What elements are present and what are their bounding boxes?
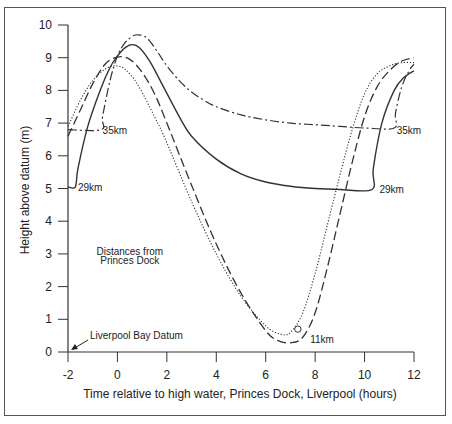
axes: 012345678910-2024681012Time relative to … xyxy=(18,18,421,401)
annotation-label: 29km xyxy=(78,182,102,193)
annotation-label: Princes Dock xyxy=(100,255,160,266)
annotation-label: 35km xyxy=(397,125,421,136)
series-line-35km xyxy=(68,35,414,131)
y-tick-label: 2 xyxy=(45,280,52,294)
annotation-label: 35km xyxy=(103,125,127,136)
tide-height-chart: 012345678910-2024681012Time relative to … xyxy=(0,0,452,424)
x-tick-label: 10 xyxy=(358,368,372,382)
annotation-label: Liverpool Bay Datum xyxy=(90,330,183,341)
x-tick-label: 12 xyxy=(407,368,421,382)
x-axis-title: Time relative to high water, Princes Doc… xyxy=(83,387,397,401)
y-tick-label: 4 xyxy=(45,214,52,228)
y-tick-label: 7 xyxy=(45,116,52,130)
y-axis-title: Height above datum (m) xyxy=(18,126,32,255)
x-tick-label: 2 xyxy=(164,368,171,382)
y-tick-label: 8 xyxy=(45,83,52,97)
y-tick-label: 3 xyxy=(45,247,52,261)
point-marker xyxy=(295,326,301,332)
series-lines xyxy=(68,35,414,343)
annotation-label: 29km xyxy=(379,184,403,195)
x-tick-label: 6 xyxy=(262,368,269,382)
x-tick-label: 4 xyxy=(213,368,220,382)
y-tick-label: 5 xyxy=(45,182,52,196)
y-tick-label: 10 xyxy=(39,18,53,32)
annotations: Liverpool Bay DatumDistances fromPrinces… xyxy=(71,125,421,350)
y-tick-label: 6 xyxy=(45,149,52,163)
y-tick-label: 0 xyxy=(45,345,52,359)
x-tick-label: 8 xyxy=(312,368,319,382)
y-tick-label: 1 xyxy=(45,312,52,326)
annotation-label: 11km xyxy=(310,334,334,345)
x-tick-label: -2 xyxy=(63,368,74,382)
x-tick-label: 0 xyxy=(114,368,121,382)
y-tick-label: 9 xyxy=(45,51,52,65)
